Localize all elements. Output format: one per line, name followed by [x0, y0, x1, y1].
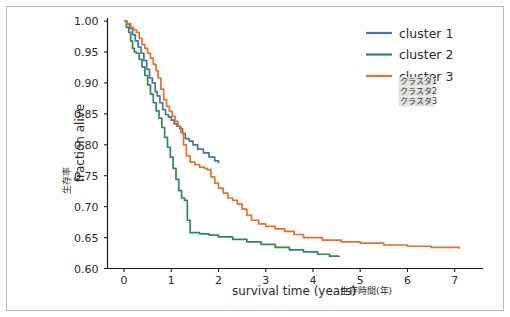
legend-label-1: cluster 1	[399, 26, 453, 41]
legend-note-1: クラスタ1	[400, 77, 437, 86]
y-tick-label: 0.90	[74, 77, 99, 90]
x-tick-label: 5	[357, 274, 364, 287]
figure-container: 0.600.650.700.750.800.850.900.951.00 012…	[0, 0, 510, 317]
x-tick-label: 2	[215, 274, 222, 287]
y-tick-label: 0.65	[74, 232, 99, 245]
series-line-2	[124, 21, 339, 257]
series-line-1	[124, 21, 218, 163]
x-tick-label: 0	[121, 274, 128, 287]
survival-curve-chart: 0.600.650.700.750.800.850.900.951.00 012…	[0, 0, 510, 317]
x-tick-label: 1	[168, 274, 175, 287]
y-tick-label: 0.70	[74, 201, 99, 214]
x-axis-title-jp: 生存時間(年)	[340, 285, 392, 296]
x-tick-label: 6	[404, 274, 411, 287]
y-tick-label: 1.00	[74, 15, 99, 28]
legend-label-2: cluster 2	[399, 47, 453, 62]
legend-note-3: クラスタ3	[400, 97, 437, 106]
y-tick-label: 0.60	[74, 263, 99, 276]
y-axis-title-jp: 生存率	[61, 167, 72, 194]
y-axis-title: fraction alive	[73, 104, 87, 182]
y-tick-label: 0.95	[74, 46, 99, 59]
legend-note-2: クラスタ2	[400, 87, 437, 96]
x-axis-title: survival time (years)	[232, 284, 356, 298]
x-tick-label: 7	[451, 274, 458, 287]
chart-legend: cluster 1cluster 2cluster 3	[366, 26, 453, 84]
legend-notes: クラスタ1クラスタ2クラスタ3	[399, 77, 438, 107]
